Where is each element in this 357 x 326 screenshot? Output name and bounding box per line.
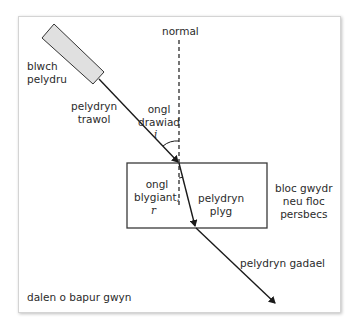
label-angle-refraction: ongl blygiant, [134,178,180,204]
ray-diagram-graphics [0,0,357,326]
label-paper: dalen o bapur gwyn [27,291,131,304]
label-normal: normal [162,25,199,38]
angle-incidence-arc [163,141,179,146]
label-angle-refraction-symbol: r [151,204,156,217]
label-refracted-ray: pelydryn plyg [198,192,244,218]
refracted-ray [179,163,195,226]
label-ray-box: blwch pelydru [27,60,67,86]
label-emergent-ray: pelydryn gadael [240,257,325,270]
diagram-stage: blwch pelydru normal pelydryn trawol ong… [0,0,357,326]
label-angle-incidence-symbol: i [154,128,157,141]
label-angle-incidence: ongl drawiad [138,103,180,129]
label-glass-block: bloc gwydr neu floc persbecs [275,182,333,221]
label-incident-ray: pelydryn trawol [71,100,117,126]
